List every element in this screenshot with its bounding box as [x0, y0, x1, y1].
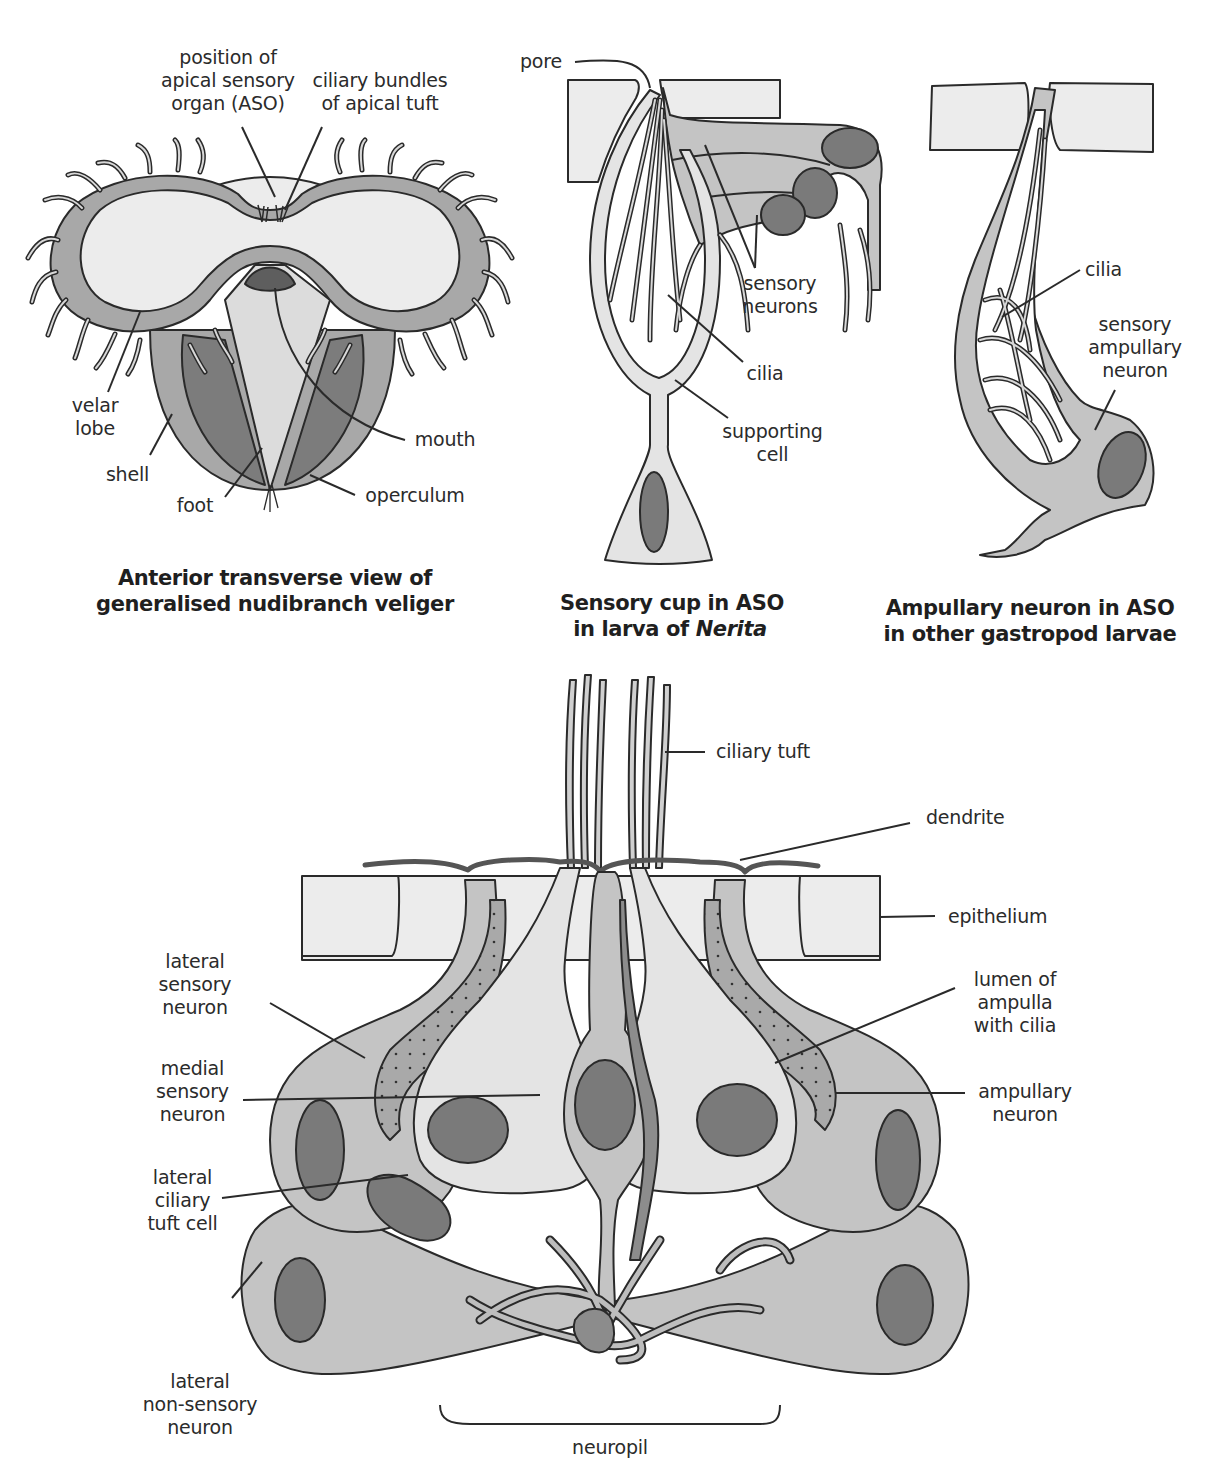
label-neuropil: neuropil	[560, 1436, 660, 1459]
label-foot: foot	[170, 494, 220, 517]
label-mouth: mouth	[410, 428, 480, 451]
label-medial-sensory-neuron: medial sensory neuron	[140, 1057, 245, 1126]
label-velar-lobe: velar lobe	[60, 394, 130, 440]
caption-ampullary-neuron: Ampullary neuron in ASO in other gastrop…	[880, 595, 1180, 647]
label-supporting-cell: supporting cell	[715, 420, 830, 466]
label-operculum: operculum	[360, 484, 470, 507]
label-sensory-ampullary-neuron: sensory ampullary neuron	[1080, 313, 1190, 382]
label-epithelium: epithelium	[948, 905, 1047, 928]
label-ciliary-bundles: ciliary bundles of apical tuft	[300, 69, 460, 115]
sensory-cup-diagram	[568, 60, 882, 563]
neuropil-brace	[440, 1405, 780, 1424]
caption-sensory-cup: Sensory cup in ASO in larva of Nerita	[560, 590, 780, 642]
label-shell: shell	[100, 463, 155, 486]
label-sensory-neurons: sensory neurons	[735, 272, 825, 318]
label-ciliary-tuft: ciliary tuft	[716, 740, 810, 763]
figure-artwork	[0, 0, 1211, 1470]
label-lumen-of-ampulla: lumen of ampulla with cilia	[960, 968, 1070, 1037]
label-cilia-cup: cilia	[740, 362, 790, 385]
label-dendrite: dendrite	[926, 806, 1004, 829]
label-lateral-ciliary-tuft-cell: lateral ciliary tuft cell	[135, 1166, 230, 1235]
label-cilia-ampullary: cilia	[1085, 258, 1122, 281]
label-aso-position: position of apical sensory organ (ASO)	[128, 46, 328, 115]
aso-section-diagram	[222, 675, 969, 1424]
caption-sensory-cup-prefix: in larva of	[573, 617, 695, 641]
dendrite-shape	[365, 860, 818, 872]
caption-sensory-cup-genus: Nerita	[696, 617, 767, 641]
caption-veliger: Anterior transverse view of generalised …	[90, 565, 460, 617]
veliger-diagram	[28, 127, 512, 512]
label-ampullary-neuron: ampullary neuron	[970, 1080, 1080, 1126]
label-lateral-sensory-neuron: lateral sensory neuron	[140, 950, 250, 1019]
label-pore: pore	[520, 50, 562, 73]
label-lateral-non-sensory-neuron: lateral non-sensory neuron	[135, 1370, 265, 1439]
